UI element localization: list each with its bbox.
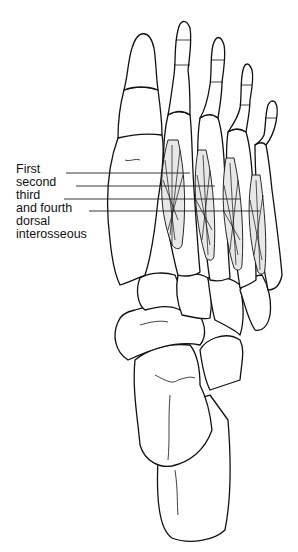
second-toe-phalanges [168, 21, 191, 115]
fifth-toe-phalanges [255, 101, 277, 145]
first-metatarsal-bone [108, 132, 164, 285]
intermediate-cuneiform-bone [177, 273, 212, 318]
first-dorsal-interosseous-muscle [162, 140, 185, 249]
talus-bone [134, 345, 212, 467]
label-interosseous: interosseous [16, 228, 87, 242]
great-toe-distal-phalanx [124, 34, 158, 90]
lateral-cuneiform-bone [208, 277, 243, 335]
third-toe-phalanges [200, 38, 225, 119]
fourth-toe-phalanges [228, 64, 253, 132]
foot-anatomy-figure: First second third and fourth dorsal int… [0, 0, 298, 552]
great-toe-proximal-phalanx [118, 87, 162, 138]
medial-cuneiform-bone [138, 273, 181, 310]
cuboid-bone [200, 336, 243, 390]
foot-skeleton-illustration [0, 0, 298, 552]
